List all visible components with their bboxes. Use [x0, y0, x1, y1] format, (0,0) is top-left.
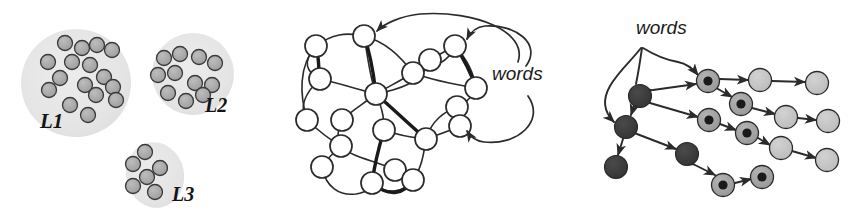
cluster-dot	[208, 56, 223, 71]
network-node	[331, 109, 353, 131]
cluster-label-L1: L1	[39, 109, 63, 133]
cluster-blob-L1: L1	[14, 22, 138, 144]
tree-node-bullseye	[712, 174, 735, 197]
network-node	[309, 68, 331, 90]
cluster-dot	[140, 170, 155, 185]
cluster-blob-L3: L3	[120, 137, 194, 214]
network-node	[330, 135, 352, 157]
word-pointer-arrow	[467, 26, 531, 66]
cluster-dot	[151, 68, 166, 83]
cluster-dot	[81, 108, 96, 123]
network-node	[465, 77, 487, 99]
cluster-label-L3: L3	[171, 183, 194, 205]
tree-edge	[798, 118, 816, 120]
cluster-dot	[138, 145, 153, 160]
cluster-dot	[89, 88, 104, 103]
cluster-dot	[168, 66, 183, 81]
tree-edge	[618, 139, 623, 155]
cluster-dot	[58, 36, 73, 51]
tree-node-dark	[605, 156, 628, 179]
tree-edge	[720, 124, 736, 130]
cluster-dot	[126, 179, 141, 194]
network-node	[444, 35, 466, 57]
panel-language-clusters: L1 L2	[0, 0, 290, 218]
cluster-label-L2: L2	[204, 94, 227, 116]
cluster-dot	[179, 94, 194, 109]
network-node	[353, 25, 375, 47]
tree-canvas: words	[596, 0, 866, 218]
cluster-dot	[53, 71, 68, 86]
cluster-dot	[83, 58, 98, 73]
cluster-dot	[161, 86, 176, 101]
tree-edge	[650, 103, 698, 117]
cluster-dot	[90, 38, 105, 53]
tree-edge	[792, 151, 816, 158]
cluster-dot	[41, 55, 56, 70]
tree-node-bullseye	[698, 109, 721, 132]
tree-node-light	[816, 149, 839, 172]
network-node	[415, 128, 437, 150]
tree-edge	[653, 84, 696, 90]
network-node	[402, 169, 424, 191]
cluster-dot	[42, 83, 57, 98]
network-node	[402, 62, 424, 84]
cluster-dot	[148, 185, 163, 200]
tree-edge	[752, 108, 775, 114]
network-node	[361, 172, 383, 194]
tree-edge	[720, 79, 748, 80]
tree-edge	[637, 134, 676, 149]
network-node	[373, 119, 395, 141]
tree-edge	[631, 106, 634, 115]
tree-node-light	[817, 110, 840, 133]
tree-node-light	[770, 137, 793, 160]
cluster-dot	[109, 93, 124, 108]
tree-node-bullseye	[730, 93, 753, 116]
tree-node-dark	[676, 143, 699, 166]
tree-edge	[735, 179, 751, 183]
panel-word-network: words	[280, 0, 580, 218]
word-pointer-arrow	[643, 48, 698, 75]
tree-edge	[772, 81, 805, 82]
cluster-dot	[173, 47, 188, 62]
tree-node-light	[806, 72, 829, 95]
cluster-dot	[157, 51, 172, 66]
tree-words-label: words	[636, 17, 687, 38]
clusters-canvas: L1 L2	[0, 0, 290, 218]
tree-edge	[758, 138, 770, 145]
cluster-dot	[75, 41, 90, 56]
network-canvas: words	[280, 0, 580, 218]
cluster-dot	[63, 98, 78, 113]
cluster-dot	[105, 43, 120, 58]
tree-node-bullseye	[697, 70, 720, 93]
tree-node-bullseye	[736, 122, 759, 145]
cluster-dot	[126, 157, 141, 172]
network-node	[365, 83, 387, 105]
tree-node-bullseye	[751, 166, 774, 189]
tree-node-dark	[615, 116, 638, 139]
network-node	[449, 115, 471, 137]
tree-edge	[718, 89, 732, 97]
cluster-dot	[65, 55, 80, 70]
tree-edge	[695, 165, 715, 175]
tree-node-dark	[629, 85, 652, 108]
network-node	[311, 156, 333, 178]
cluster-dot	[153, 161, 168, 176]
cluster-dot	[192, 50, 207, 65]
figure-three-panel-diagram: L1 L2	[0, 0, 866, 218]
tree-node-light	[775, 106, 798, 129]
network-node	[305, 35, 327, 57]
word-pointer-arrow	[467, 96, 533, 142]
panel-word-tree: words	[596, 0, 866, 218]
tree-node-light	[749, 69, 772, 92]
tree-nodes	[605, 69, 840, 197]
network-node	[296, 109, 318, 131]
network-words-label: words	[492, 63, 543, 84]
cluster-blob-L2: L2	[148, 29, 238, 119]
